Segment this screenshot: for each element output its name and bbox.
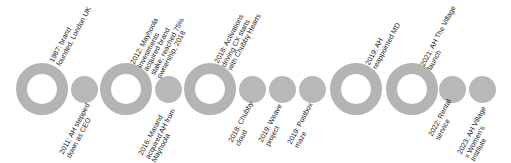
timeline-dot-marker [469, 76, 496, 103]
event-label: 1987: brand founded, London UK [48, 2, 92, 67]
timeline-dot-marker [71, 76, 98, 103]
timeline-dot-marker [239, 76, 266, 103]
event-label: 2019: Postbox maze [286, 101, 321, 149]
timeline: 1987: brand founded, London UK 2011: AH … [0, 0, 511, 163]
event-label: 2021: AH The Village launch [419, 5, 464, 72]
timeline-ring-marker [184, 63, 236, 115]
event-label: 2016: Marand acquired AH from Mayhoola [137, 104, 183, 163]
timeline-dot-marker [155, 76, 182, 103]
timeline-ring-marker [386, 63, 438, 115]
timeline-ring-marker [100, 63, 152, 115]
event-label: 2019: AH reappointed MD [364, 18, 401, 70]
event-label: 2018: Activations driving CX starts with… [213, 6, 263, 72]
event-label: 2011: AH stepped down as CEO [58, 102, 98, 159]
timeline-ring-marker [330, 63, 382, 115]
timeline-ring-marker [16, 63, 68, 115]
timeline-dot-marker [269, 76, 296, 103]
timeline-dot-marker [299, 76, 326, 103]
event-label: 2023: AH Village x Women's Institute [456, 105, 501, 163]
